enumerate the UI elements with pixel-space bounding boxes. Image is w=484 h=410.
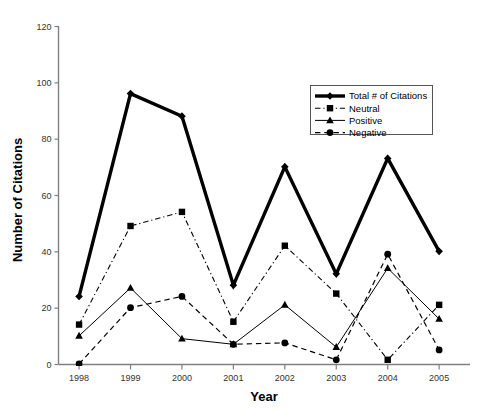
x-tick-label: 2004 (378, 373, 398, 383)
x-tick-label: 2001 (223, 373, 243, 383)
data-point-marker (333, 290, 339, 296)
data-point-marker (127, 304, 134, 311)
y-tick-label: 40 (41, 247, 51, 257)
citations-line-chart: 020406080100120 199819992000200120022003… (0, 0, 484, 410)
y-tick-label: 0 (46, 360, 51, 370)
x-tick-label: 2005 (429, 373, 449, 383)
x-tick-label: 1998 (69, 373, 89, 383)
x-axis-title: Year (250, 389, 277, 404)
y-axis-title: Number of Citations (10, 138, 25, 262)
x-tick-label: 2003 (326, 373, 346, 383)
x-tick-label: 2002 (275, 373, 295, 383)
chart-legend: Total # of CitationsNeutralPositiveNegat… (311, 86, 433, 139)
y-tick-label: 80 (41, 134, 51, 144)
data-point-marker (281, 339, 288, 346)
legend-label: Neutral (349, 103, 380, 114)
y-tick-label: 100 (36, 78, 51, 88)
data-point-marker (230, 341, 237, 348)
data-point-marker (76, 321, 82, 327)
data-point-marker (436, 347, 443, 354)
legend-label: Negative (349, 127, 387, 138)
data-point-marker (327, 129, 334, 136)
data-point-marker (385, 357, 391, 363)
data-point-marker (179, 209, 185, 215)
x-tick-label: 2000 (172, 373, 192, 383)
data-point-marker (282, 243, 288, 249)
data-point-marker (384, 251, 391, 258)
data-point-marker (333, 356, 340, 363)
y-tick-label: 60 (41, 191, 51, 201)
data-point-marker (127, 223, 133, 229)
chart-background (0, 0, 484, 410)
data-point-marker (230, 319, 236, 325)
y-tick-label: 120 (36, 22, 51, 32)
x-tick-label: 1999 (120, 373, 140, 383)
y-tick-label: 20 (41, 303, 51, 313)
legend-label: Positive (349, 115, 382, 126)
chart-canvas: 020406080100120 199819992000200120022003… (0, 0, 484, 410)
data-point-marker (436, 302, 442, 308)
data-point-marker (327, 105, 333, 111)
data-point-marker (179, 293, 186, 300)
legend-label: Total # of Citations (349, 90, 427, 101)
